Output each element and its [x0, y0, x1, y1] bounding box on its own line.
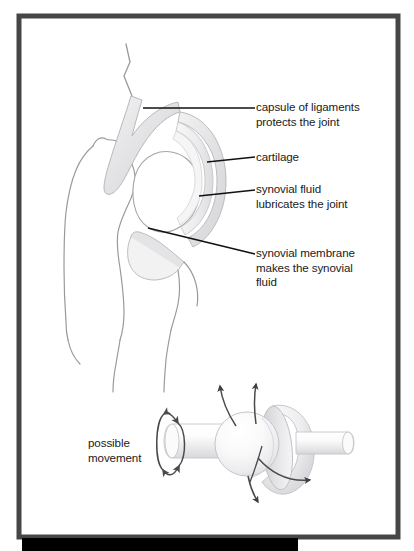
figure-root: capsule of ligaments protects the joint … [0, 0, 414, 551]
label-cartilage: cartilage [256, 150, 299, 165]
label-possible-movement: possible movement [88, 436, 141, 465]
label-synovial-membrane: synovial membrane makes the synovial flu… [256, 246, 355, 290]
bottom-shadow-bar [22, 538, 298, 551]
joint-ball [215, 412, 279, 476]
left-rod-cap [165, 424, 179, 458]
label-synovial-fluid: synovial fluid lubricates the joint [256, 182, 347, 211]
right-rod-cap [343, 432, 354, 454]
label-capsule-of-ligaments: capsule of ligaments protects the joint [256, 100, 360, 129]
